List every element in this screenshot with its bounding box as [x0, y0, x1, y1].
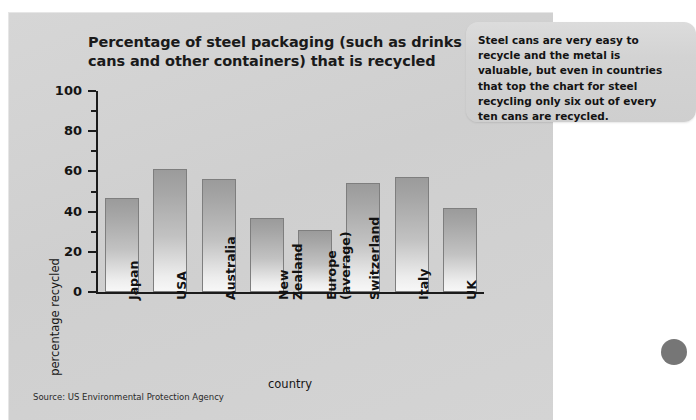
page-corner-dot [661, 339, 687, 365]
x-axis-title: country [96, 377, 484, 391]
callout-text: Steel cans are very easy to recycle and … [478, 33, 673, 124]
chart-title-line-2: cans and other containers) that is recyc… [88, 52, 468, 71]
y-axis-title-wrapper: percentage recycled [30, 120, 50, 280]
y-axis-title: percentage recycled [48, 247, 62, 387]
chart-title-line-1: Percentage of steel packaging (such as d… [88, 33, 468, 52]
source-note: Source: US Environmental Protection Agen… [33, 392, 224, 402]
callout-box: Steel cans are very easy to recycle and … [466, 22, 696, 122]
chart-title: Percentage of steel packaging (such as d… [88, 33, 468, 71]
